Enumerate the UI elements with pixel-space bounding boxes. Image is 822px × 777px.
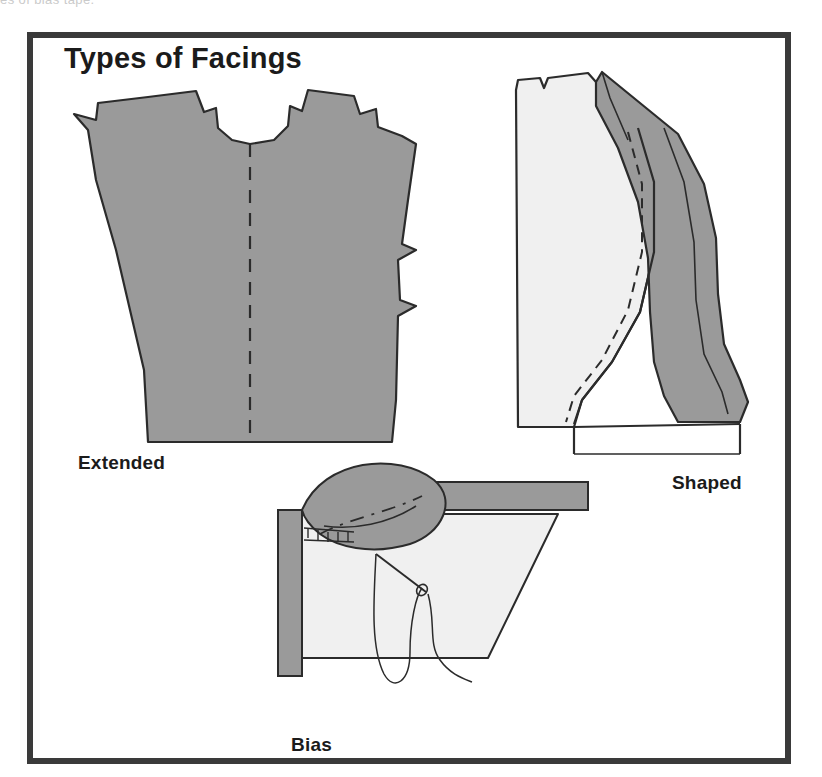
shaped-facing-illustration (478, 62, 788, 482)
bias-facing-needle-icon (278, 463, 588, 683)
shaped-facing-icon (516, 72, 748, 454)
extended-facing-illustration (36, 70, 436, 460)
bias-facing-illustration (258, 476, 588, 726)
figure-label-shaped: Shaped (672, 472, 742, 494)
scan-top-text-fragment: es of bias tape. (0, 0, 260, 8)
bodice-pattern-piece-icon (74, 90, 416, 442)
figure-label-bias: Bias (291, 734, 332, 756)
figure-label-extended: Extended (78, 452, 165, 474)
